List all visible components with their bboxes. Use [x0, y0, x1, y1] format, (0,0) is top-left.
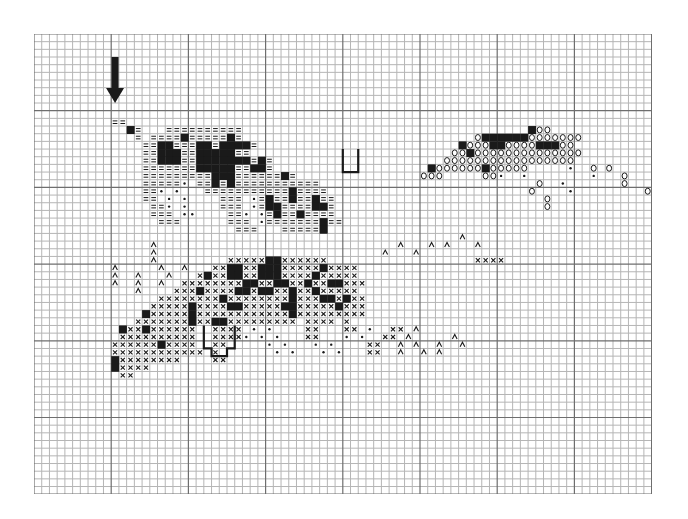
circle-icon	[514, 150, 519, 156]
dot-icon	[168, 205, 170, 207]
circle-icon	[460, 150, 465, 156]
filled-square-icon	[489, 141, 497, 149]
caret-icon	[437, 350, 442, 355]
filled-square-icon	[158, 141, 166, 149]
caret-icon	[406, 334, 411, 339]
filled-square-icon	[227, 302, 235, 310]
filled-square-icon	[551, 141, 559, 149]
caret-icon	[452, 334, 457, 339]
circle-icon	[475, 158, 480, 164]
dot-icon	[322, 351, 324, 353]
circle-icon	[514, 165, 519, 171]
dot-icon	[261, 213, 263, 215]
filled-square-icon	[266, 264, 274, 272]
filled-square-icon	[204, 149, 212, 157]
circle-icon	[537, 135, 542, 141]
filled-square-icon	[227, 149, 235, 157]
filled-square-icon	[212, 157, 220, 165]
dot-icon	[276, 351, 278, 353]
filled-square-icon	[227, 172, 235, 180]
filled-square-icon	[482, 164, 490, 172]
filled-square-icon	[188, 302, 196, 310]
filled-square-icon	[258, 157, 266, 165]
caret-icon	[398, 242, 403, 247]
circle-icon	[529, 188, 534, 194]
circle-icon	[491, 150, 496, 156]
filled-square-icon	[320, 226, 328, 234]
circle-icon	[475, 135, 480, 141]
filled-square-icon	[235, 287, 243, 295]
circle-icon	[483, 150, 488, 156]
dot-icon	[338, 351, 340, 353]
caret-icon	[159, 281, 164, 286]
filled-square-icon	[528, 126, 536, 134]
filled-square-icon	[266, 203, 274, 211]
circle-icon	[560, 135, 565, 141]
circle-icon	[545, 204, 550, 210]
dot-icon	[291, 351, 293, 353]
caret-icon	[414, 250, 419, 255]
filled-square-icon	[466, 149, 474, 157]
filled-square-icon	[343, 295, 351, 303]
filled-square-icon	[219, 149, 227, 157]
filled-square-icon	[320, 295, 328, 303]
filled-square-icon	[242, 141, 250, 149]
filled-square-icon	[227, 264, 235, 272]
caret-icon	[136, 281, 141, 286]
circle-icon	[421, 173, 426, 179]
filled-square-icon	[312, 203, 320, 211]
circle-icon	[529, 142, 534, 148]
circle-icon	[499, 158, 504, 164]
caret-icon	[383, 250, 388, 255]
filled-square-icon	[227, 157, 235, 165]
filled-square-icon	[258, 164, 266, 172]
circle-icon	[560, 142, 565, 148]
circle-icon	[529, 150, 534, 156]
arrow-down-icon	[112, 57, 119, 89]
filled-square-icon	[273, 264, 281, 272]
filled-square-icon	[196, 149, 204, 157]
caret-icon	[414, 327, 419, 332]
circle-icon	[522, 158, 527, 164]
circle-icon	[437, 165, 442, 171]
filled-square-icon	[289, 287, 297, 295]
filled-square-icon	[212, 164, 220, 172]
circle-icon	[591, 165, 596, 171]
filled-square-icon	[273, 256, 281, 264]
circle-icon	[645, 188, 650, 194]
filled-square-icon	[188, 310, 196, 318]
filled-square-icon	[320, 203, 328, 211]
circle-icon	[560, 158, 565, 164]
dot-icon	[268, 343, 270, 345]
filled-square-icon	[497, 141, 505, 149]
circle-icon	[506, 142, 511, 148]
circle-icon	[545, 150, 550, 156]
circle-icon	[537, 150, 542, 156]
filled-square-icon	[212, 149, 220, 157]
caret-icon	[136, 288, 141, 293]
circle-icon	[568, 150, 573, 156]
filled-square-icon	[281, 279, 289, 287]
caret-icon	[414, 342, 419, 347]
dot-icon	[569, 190, 571, 192]
filled-square-icon	[227, 272, 235, 280]
dot-icon	[315, 343, 317, 345]
circle-icon	[576, 135, 581, 141]
filled-square-icon	[188, 318, 196, 326]
filled-square-icon	[235, 272, 243, 280]
filled-square-icon	[127, 126, 135, 134]
filled-square-icon	[158, 341, 166, 349]
filled-square-icon	[227, 141, 235, 149]
filled-square-icon	[266, 195, 274, 203]
circle-icon	[576, 150, 581, 156]
filled-square-icon	[212, 172, 220, 180]
filled-square-icon	[242, 287, 250, 295]
caret-icon	[159, 265, 164, 270]
filled-square-icon	[489, 134, 497, 142]
dot-icon	[176, 190, 178, 192]
filled-square-icon	[266, 256, 274, 264]
filled-square-icon	[235, 264, 243, 272]
filled-square-icon	[219, 157, 227, 165]
caret-icon	[445, 242, 450, 247]
circle-icon	[522, 165, 527, 171]
